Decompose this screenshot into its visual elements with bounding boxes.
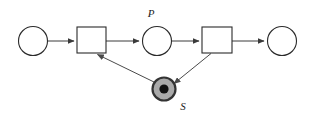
place-input — [19, 27, 48, 56]
place-group — [19, 27, 297, 101]
place-p-label: P — [147, 7, 155, 19]
petri-net-canvas: P S — [0, 0, 310, 122]
arc-s-to-left-transition — [98, 55, 155, 83]
transition-right — [202, 27, 232, 53]
token-dot-s — [159, 84, 168, 93]
arc-right-transition-to-s — [174, 54, 211, 84]
place-p — [143, 27, 172, 56]
petri-net-diagram: P S — [0, 0, 310, 122]
transition-left — [77, 27, 106, 53]
place-s-label: S — [180, 100, 186, 112]
place-output — [268, 27, 297, 56]
